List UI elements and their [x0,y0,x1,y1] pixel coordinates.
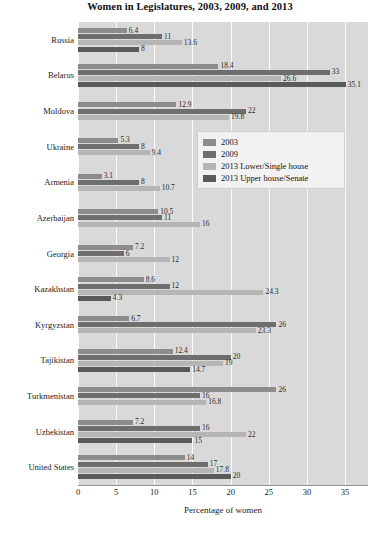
bar [78,367,190,372]
bar-value-label: 15 [192,437,202,445]
bar [78,438,192,443]
bar-value-label: 35.1 [346,81,361,89]
bar-row: 6 [78,251,368,256]
bar-row: 26.6 [78,76,368,81]
bar-row: 19 [78,361,368,366]
bar-value-label: 8 [139,45,145,53]
bar [78,180,139,185]
bar-row: 8.6 [78,277,368,282]
bar-value-label: 22 [246,107,256,115]
bar-row: 23.3 [78,328,368,333]
bar-value-label: 20 [231,473,241,481]
x-tick-label: 20 [226,487,235,497]
bar-value-label: 11 [162,33,171,41]
bar [78,28,127,33]
bar [78,174,102,179]
bar [78,76,281,81]
bar-value-label: 33 [330,68,340,76]
bar [78,47,139,52]
legend-swatch [203,151,216,158]
bar-row: 16.8 [78,400,368,405]
y-axis-label: Belarus [0,70,74,80]
bar-row: 19.8 [78,115,368,120]
bar-value-label: 7.2 [133,418,144,426]
bar-value-label: 11 [162,214,171,222]
bar-value-label: 16 [200,220,210,228]
legend-item: 2013 Upper house/Senate [203,172,339,184]
bar-row: 11 [78,215,368,220]
chart-title: Women in Legislatures, 2003, 2009, and 2… [0,1,380,12]
bar-row: 10.5 [78,209,368,214]
y-axis-label: Tajikistan [0,355,74,365]
bar [78,150,150,155]
legend-item: 2009 [203,148,339,160]
bar [78,284,170,289]
bar-row: 33 [78,70,368,75]
bar [78,426,200,431]
x-tick-label: 35 [341,487,350,497]
bar-row: 22 [78,432,368,437]
bar-row: 12 [78,257,368,262]
bar [78,102,176,107]
bar-value-label: 8 [139,178,145,186]
bars-layer: 6.41113.6818.43326.635.112.92219.85.389.… [78,22,368,485]
bar [78,144,139,149]
bar-value-label: 18.4 [218,62,233,70]
bar-value-label: 5.3 [118,137,129,145]
bar-value-label: 14.7 [190,366,205,374]
legend-item: 2003 [203,136,339,148]
bar-value-label: 14 [185,454,195,462]
bar [78,400,206,405]
bar [78,222,200,227]
bar-value-label: 6 [124,250,130,258]
x-axis-tick-labels: 05101520253035 [0,487,380,501]
bar [78,432,246,437]
bar-row: 26 [78,322,368,327]
bar-row: 11 [78,34,368,39]
bar-row: 12.4 [78,349,368,354]
bar [78,40,182,45]
bar [78,474,231,479]
legend-swatch [203,175,216,182]
x-tick-label: 10 [150,487,159,497]
x-axis-title: Percentage of women [78,505,368,515]
legend-label: 2009 [221,149,238,159]
bar [78,115,229,120]
x-tick-label: 30 [303,487,312,497]
bar [78,277,144,282]
bar-value-label: 9.4 [150,149,161,157]
bar-value-label: 4.3 [111,295,122,303]
bar [78,290,263,295]
x-tick-label: 0 [76,487,80,497]
bar-row: 14.7 [78,367,368,372]
bar [78,251,124,256]
bar-value-label: 10.7 [160,185,175,193]
bar [78,296,111,301]
bar [78,34,162,39]
bar-value-label: 8 [139,143,145,151]
bar-value-label: 13.6 [182,39,197,47]
bar-row: 14 [78,455,368,460]
x-tick-label: 15 [188,487,197,497]
bar-value-label: 22 [246,431,256,439]
y-axis-label: Turkmenistan [0,391,74,401]
bar-value-label: 16 [200,425,210,433]
bar-value-label: 6.7 [129,315,140,323]
bar-row: 8 [78,47,368,52]
bar [78,64,218,69]
bar [78,322,276,327]
bar-value-label: 3.1 [102,172,113,180]
bar-value-label: 19.8 [229,113,244,121]
bar [78,387,276,392]
legend-label: 2003 [221,137,238,147]
y-axis-category-labels: RussiaBelarusMoldovaUkraineArmeniaAzerba… [0,22,74,485]
y-axis-label: Moldova [0,106,74,116]
bar [78,393,200,398]
bar-value-label: 26.6 [281,75,296,83]
bar [78,355,231,360]
bar-row: 12.9 [78,102,368,107]
y-axis-label: Azerbaijan [0,213,74,223]
bar-row: 16 [78,222,368,227]
bar-row: 20 [78,474,368,479]
bar [78,349,173,354]
